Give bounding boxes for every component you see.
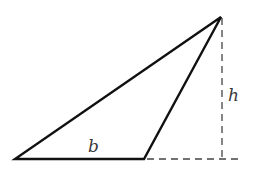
triangle <box>15 17 221 159</box>
base-label: b <box>88 136 99 156</box>
diagram-canvas: b h <box>0 0 257 187</box>
triangle-diagram: b h <box>0 0 257 187</box>
height-label: h <box>228 85 239 105</box>
